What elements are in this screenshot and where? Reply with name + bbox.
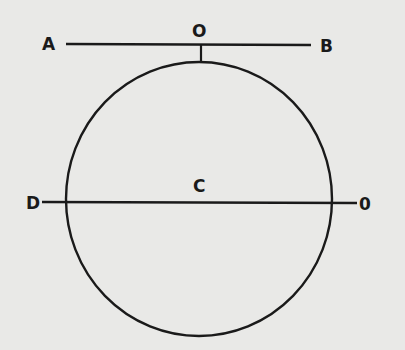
label-o-right: 0: [359, 196, 371, 213]
line-do: [42, 202, 357, 203]
label-b: B: [320, 38, 333, 55]
label-o-top: O: [192, 23, 206, 40]
label-c: C: [193, 178, 205, 195]
line-ab: [66, 44, 311, 45]
diagram-canvas: [0, 0, 405, 350]
label-d: D: [26, 195, 40, 212]
label-a: A: [42, 36, 55, 53]
circle: [66, 62, 332, 336]
